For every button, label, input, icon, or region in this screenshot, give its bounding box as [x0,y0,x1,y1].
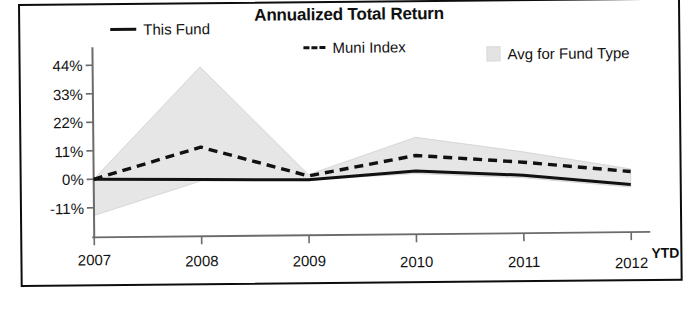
x-axis-label-1: 2008 [185,252,219,269]
chart-frame: Annualized Total Return This Fund Muni I… [18,0,683,287]
chart-container: Annualized Total Return This Fund Muni I… [20,0,681,285]
x-axis-label-3: 2010 [400,253,434,270]
x-axis-ytd-label: YTD [651,245,679,261]
x-axis-label-4: 2011 [508,253,540,270]
x-axis-tick-labels: 200720082009201020112012 [20,0,685,289]
x-axis-label-5: 2012 [615,254,649,271]
x-axis-label-0: 2007 [78,251,112,268]
x-axis-label-2: 2009 [293,252,327,269]
